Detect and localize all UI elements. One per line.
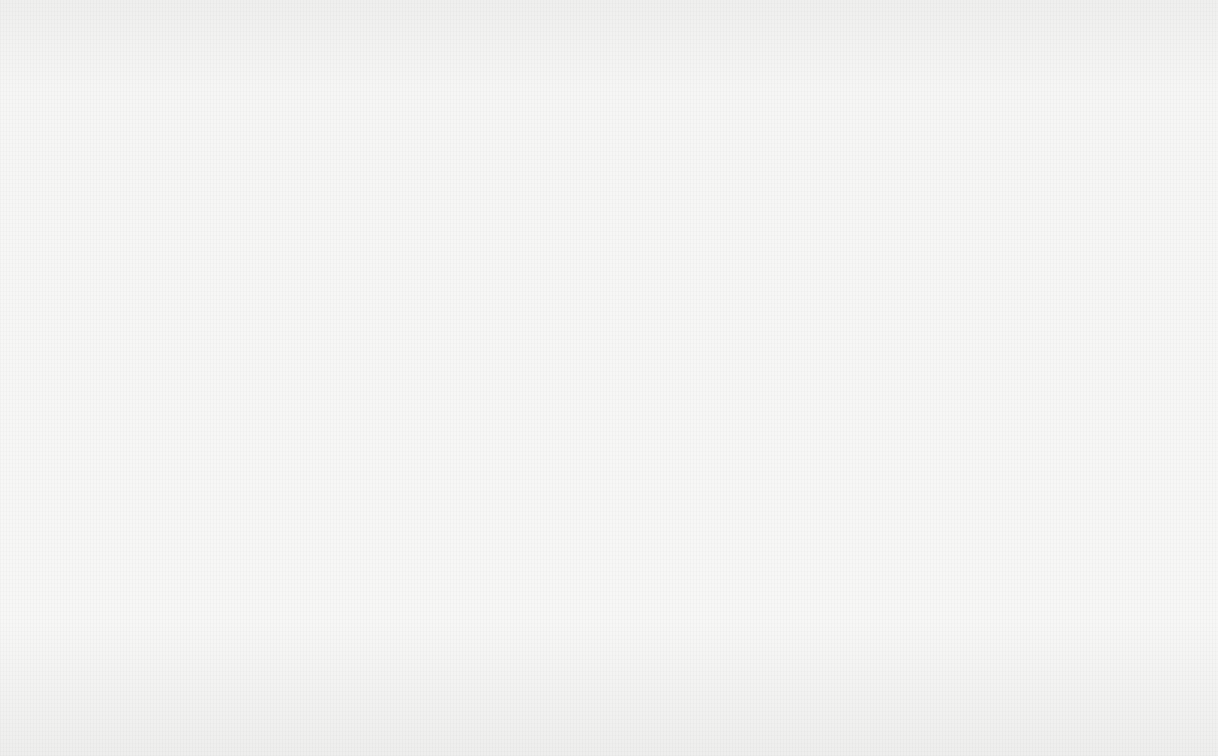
x-axis-tick-marks bbox=[118, 635, 1120, 648]
y-axis-tick-marks bbox=[105, 100, 118, 635]
data-series-line bbox=[118, 160, 1130, 581]
axis-lines bbox=[118, 100, 1160, 635]
chart-plot-svg bbox=[0, 0, 1218, 756]
clipped-caption-strip: p a g e bbox=[0, 0, 1218, 16]
line-chart-figure: Billions of Dollars Year 2,4002,2002,000… bbox=[0, 0, 1218, 756]
clipped-caption-text: p a g e bbox=[232, 0, 296, 6]
